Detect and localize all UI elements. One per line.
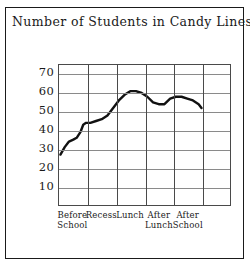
x-axis-tick-label-line2: School bbox=[48, 220, 96, 230]
data-line-svg bbox=[59, 65, 230, 205]
y-axis-tick-label: 70 bbox=[20, 67, 54, 79]
gridline-horizontal bbox=[59, 112, 230, 113]
gridline-horizontal bbox=[59, 188, 230, 189]
x-axis-tick-label-line2: School bbox=[164, 220, 212, 230]
gridline-horizontal bbox=[59, 169, 230, 170]
gridline-vertical bbox=[203, 65, 204, 205]
plot-area bbox=[58, 64, 231, 206]
y-axis-tick-label: 40 bbox=[20, 124, 54, 136]
gridline-horizontal bbox=[59, 74, 230, 75]
gridline-vertical bbox=[117, 65, 118, 205]
gridline-horizontal bbox=[59, 150, 230, 151]
chart-title: Number of Students in Candy Lines bbox=[12, 14, 240, 29]
x-axis-tick-label-line1: After bbox=[176, 210, 199, 220]
y-axis-tick-label: 50 bbox=[20, 105, 54, 117]
y-axis-tick-label: 30 bbox=[20, 143, 54, 155]
gridline-vertical bbox=[174, 65, 175, 205]
y-axis: 70605040302010 bbox=[14, 64, 54, 206]
y-axis-tick-label: 60 bbox=[20, 86, 54, 98]
x-axis-tick-label: AfterSchool bbox=[164, 210, 212, 230]
x-axis: BeforeSchoolRecessLunchAfterLunchAfterSc… bbox=[58, 210, 231, 250]
y-axis-tick-label: 10 bbox=[20, 181, 54, 193]
gridline-horizontal bbox=[59, 131, 230, 132]
gridline-vertical bbox=[88, 65, 89, 205]
gridline-horizontal bbox=[59, 93, 230, 94]
gridline-vertical bbox=[146, 65, 147, 205]
figure-frame: Number of Students in Candy Lines 706050… bbox=[5, 7, 244, 259]
data-series-line bbox=[60, 91, 201, 154]
y-axis-tick-label: 20 bbox=[20, 162, 54, 174]
